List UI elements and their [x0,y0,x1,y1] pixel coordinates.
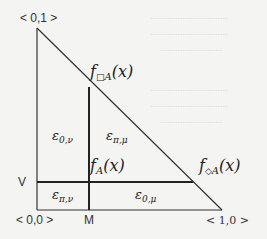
plain-curve-arg: (x) [103,156,125,175]
v-threshold-label: V [18,175,26,189]
triangle-diagram [0,0,267,239]
region-lower-right: ε0,μ [135,187,156,204]
region-subscript: 0,ν [59,135,73,145]
diamond-operator-icon: ◇ [205,166,212,176]
region-lower-left: επ,ν [52,187,73,204]
vertex-label-right: < 1,0 > [206,214,249,227]
region-upper-right: επ,μ [106,128,128,145]
vertex-label-origin: < 0,0 > [16,213,53,227]
box-curve-arg: (x) [112,62,134,81]
box-curve-sub: A [104,71,111,82]
diamond-curve-label: f◇A(x) [199,156,241,176]
region-subscript: 0,μ [142,194,156,204]
diamond-curve-arg: (x) [219,156,241,175]
region-subscript: π,μ [113,135,128,145]
m-threshold-label: M [84,213,94,227]
plain-curve-label: fA(x) [90,156,125,176]
region-symbol: ε [52,128,59,143]
region-symbol: ε [135,187,142,202]
region-symbol: ε [106,128,113,143]
region-upper-left: ε0,ν [52,128,73,145]
region-subscript: π,ν [59,194,73,204]
vertex-label-top: < 0,1 > [20,11,57,25]
box-curve-label: f□A(x) [90,62,133,82]
diamond-curve-sub: A [212,165,219,176]
region-symbol: ε [52,187,59,202]
